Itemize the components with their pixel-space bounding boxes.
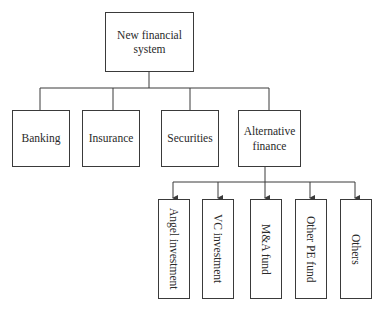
node-alternative-finance: Alternative finance	[238, 110, 301, 167]
node-vc-investment: VC investment	[202, 199, 234, 299]
node-ma-fund-label: M&A fund	[259, 224, 273, 275]
node-banking-label: Banking	[22, 131, 61, 145]
node-insurance: Insurance	[82, 110, 140, 167]
node-securities-label: Securities	[167, 131, 212, 145]
root-node-label: New financial system	[106, 28, 193, 57]
node-securities: Securities	[161, 110, 219, 167]
node-others: Others	[340, 199, 372, 299]
node-insurance-label: Insurance	[89, 131, 134, 145]
node-other-pe-fund-label: Other PE fund	[304, 216, 318, 282]
node-angel-investment: Angel investment	[158, 199, 190, 299]
node-vc-investment-label: VC investment	[211, 214, 225, 283]
root-node: New financial system	[105, 12, 194, 72]
node-banking: Banking	[12, 110, 70, 167]
node-other-pe-fund: Other PE fund	[295, 199, 327, 299]
node-angel-investment-label: Angel investment	[167, 208, 181, 289]
node-alternative-finance-label: Alternative finance	[238, 124, 302, 153]
node-others-label: Others	[349, 234, 363, 265]
node-ma-fund: M&A fund	[250, 199, 282, 299]
